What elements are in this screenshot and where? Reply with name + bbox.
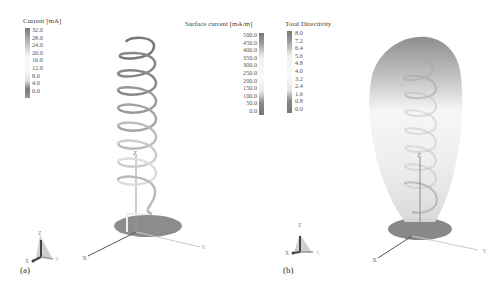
svg-text:X: X: [285, 250, 289, 256]
z-axis-label-b: Z: [417, 151, 421, 159]
panel-label-b: (b): [283, 265, 294, 275]
orientation-triad-b: Z X Y: [285, 222, 320, 256]
svg-text:Z: Z: [298, 222, 302, 228]
svg-text:Y: Y: [316, 250, 320, 256]
y-axis-label-b: Y: [482, 247, 487, 255]
x-axis-label-b: X: [372, 256, 377, 264]
directivity-pattern-b: Z X Y Z X Y: [0, 0, 503, 290]
